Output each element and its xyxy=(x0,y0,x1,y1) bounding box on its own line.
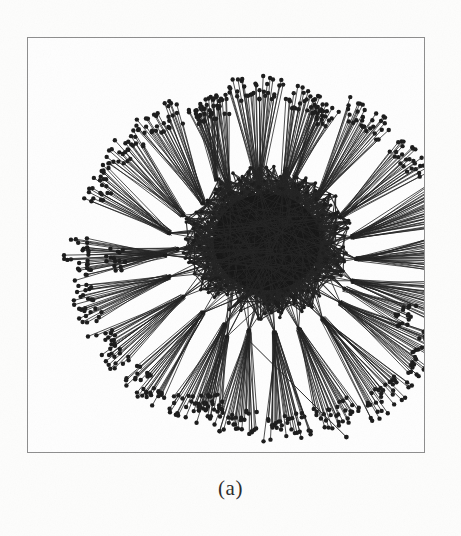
plot-frame xyxy=(27,37,425,453)
network-graph xyxy=(28,38,424,452)
figure-panel: (a) xyxy=(0,0,461,536)
figure-caption: (a) xyxy=(0,476,461,501)
